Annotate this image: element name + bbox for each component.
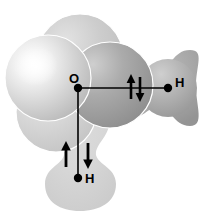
atom-label-oxygen: O (69, 72, 79, 85)
atom-dot-hydrogen-bottom (74, 174, 82, 182)
molecule-canvas (0, 0, 209, 224)
atom-dot-hydrogen-right (164, 84, 172, 92)
molecule-diagram: O H H (0, 0, 209, 224)
atom-label-hydrogen-bottom: H (85, 172, 94, 185)
atom-label-hydrogen-right: H (175, 76, 184, 89)
